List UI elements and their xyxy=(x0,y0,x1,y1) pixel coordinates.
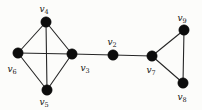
graph-node-v4 xyxy=(41,17,51,27)
graph-node-v8 xyxy=(178,78,188,88)
graph-node-v9 xyxy=(179,25,189,35)
graph-figure: v4v6v3v5v2v7v9v8 xyxy=(0,0,202,110)
node-label-v9: v9 xyxy=(177,13,186,25)
graph-edge-v7-v9 xyxy=(152,30,184,56)
graph-node-v7 xyxy=(147,51,157,61)
graph-edge-v6-v5 xyxy=(18,53,47,90)
graph-edge-v6-v3 xyxy=(18,53,72,54)
graph-edge-v4-v6 xyxy=(18,22,46,53)
graph-edge-v4-v3 xyxy=(46,22,72,54)
node-label-v6: v6 xyxy=(7,64,16,76)
node-label-v7: v7 xyxy=(146,65,155,77)
graph-node-v6 xyxy=(13,48,23,58)
graph-edge-v7-v8 xyxy=(152,56,183,83)
node-label-v3: v3 xyxy=(80,63,89,75)
graph-canvas: v4v6v3v5v2v7v9v8 xyxy=(0,0,202,110)
graph-edge-v3-v2 xyxy=(72,54,113,55)
graph-edge-v2-v7 xyxy=(113,55,152,56)
graph-node-v5 xyxy=(42,85,52,95)
graph-edge-v4-v5 xyxy=(46,22,47,90)
graph-edge-v9-v8 xyxy=(183,30,184,83)
graph-edge-v3-v5 xyxy=(47,54,72,90)
graph-node-v3 xyxy=(67,49,77,59)
node-label-v2: v2 xyxy=(107,37,116,49)
node-label-v8: v8 xyxy=(177,92,186,104)
graph-node-v2 xyxy=(108,50,118,60)
node-label-v4: v4 xyxy=(39,4,48,16)
node-label-v5: v5 xyxy=(39,97,48,109)
